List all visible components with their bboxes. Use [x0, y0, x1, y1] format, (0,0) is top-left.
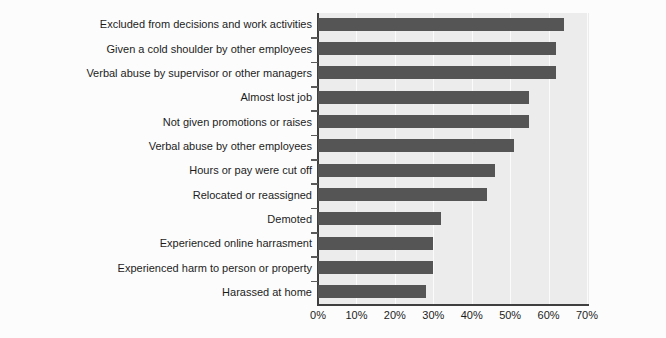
bar	[318, 42, 556, 55]
category-label: Harassed at home	[0, 286, 312, 298]
category-label: Almost lost job	[0, 91, 312, 103]
category-label: Experienced online harrasment	[0, 237, 312, 249]
x-tick-label: 20%	[384, 309, 406, 322]
bar-row	[318, 285, 589, 298]
y-tick-mark	[311, 135, 318, 137]
category-label: Demoted	[0, 213, 312, 225]
category-label: Verbal abuse by supervisor or other mana…	[0, 67, 312, 79]
bar-row	[318, 66, 589, 79]
bar	[318, 212, 441, 225]
x-axis-tick-labels: 0%10%20%30%40%50%60%70%	[0, 309, 666, 329]
bar	[318, 91, 529, 104]
bar-row	[318, 18, 589, 31]
bar-chart: Excluded from decisions and work activit…	[0, 0, 666, 338]
category-label: Not given promotions or raises	[0, 116, 312, 128]
y-tick-mark	[311, 232, 318, 234]
y-tick-mark	[311, 110, 318, 112]
bar	[318, 115, 529, 128]
y-tick-mark	[311, 159, 318, 161]
bar	[318, 164, 495, 177]
y-tick-mark	[311, 281, 318, 283]
bar-row	[318, 139, 589, 152]
bar	[318, 66, 556, 79]
x-tick-label: 70%	[576, 309, 598, 322]
chart-figure: Excluded from decisions and work activit…	[0, 0, 666, 338]
bar	[318, 139, 514, 152]
y-tick-mark	[311, 183, 318, 185]
x-tick-label: 40%	[461, 309, 483, 322]
bar	[318, 188, 487, 201]
bar-row	[318, 188, 589, 201]
bar	[318, 18, 564, 31]
bar-row	[318, 91, 589, 104]
y-tick-mark	[311, 208, 318, 210]
x-tick-label: 60%	[538, 309, 560, 322]
category-axis-labels: Excluded from decisions and work activit…	[0, 13, 312, 305]
bar	[318, 237, 433, 250]
y-tick-mark	[311, 37, 318, 39]
y-tick-mark	[311, 62, 318, 64]
category-label: Excluded from decisions and work activit…	[0, 18, 312, 30]
x-tick-label: 0%	[310, 309, 326, 322]
bar-row	[318, 115, 589, 128]
bar-row	[318, 261, 589, 274]
category-label: Relocated or reassigned	[0, 189, 312, 201]
x-tick-label: 50%	[499, 309, 521, 322]
category-label: Hours or pay were cut off	[0, 164, 312, 176]
bar-row	[318, 164, 589, 177]
bar-row	[318, 42, 589, 55]
bar-series	[318, 13, 589, 305]
x-tick-label: 10%	[345, 309, 367, 322]
x-tick-label: 30%	[422, 309, 444, 322]
category-label: Experienced harm to person or property	[0, 262, 312, 274]
y-tick-mark	[311, 256, 318, 258]
category-label: Verbal abuse by other employees	[0, 140, 312, 152]
category-label: Given a cold shoulder by other employees	[0, 43, 312, 55]
y-tick-mark	[311, 86, 318, 88]
bar-row	[318, 237, 589, 250]
bar-row	[318, 212, 589, 225]
bar	[318, 261, 433, 274]
bar	[318, 285, 426, 298]
